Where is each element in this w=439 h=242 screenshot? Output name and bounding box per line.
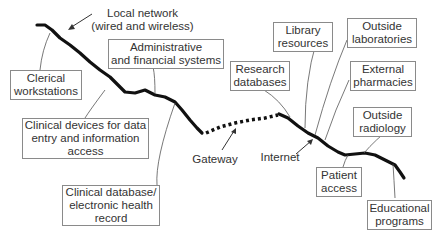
external-pharmacies-box: External pharmacies (350, 61, 416, 91)
gateway-dotted-line (206, 115, 278, 133)
administrative-financial-box: Administrative and financial systems (108, 39, 224, 69)
local-network-label: Local network (wired and wireless) (90, 7, 195, 33)
research-databases-box: Research databases (230, 61, 290, 91)
library-resources-box: Library resources (273, 22, 333, 52)
clinical-devices-box: Clinical devices for data entry and info… (22, 118, 149, 159)
patient-access-box: Patient access (316, 167, 362, 197)
gateway-arrow (222, 131, 234, 150)
educational-programs-box: Educational programs (367, 200, 432, 230)
internet-label: Internet (255, 151, 305, 164)
gateway-label: Gateway (190, 153, 240, 166)
clerical-workstations-box: Clerical workstations (10, 70, 82, 100)
clinical-database-box: Clinical database/ electronic health rec… (62, 185, 160, 226)
local-network-arrow (70, 14, 92, 28)
outside-radiology-box: Outside radiology (353, 107, 412, 137)
outside-laboratories-box: Outside laboratories (347, 18, 417, 48)
